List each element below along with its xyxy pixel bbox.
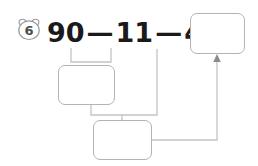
connector-step1-to-step2 bbox=[91, 105, 122, 120]
equation-term-2: 11 bbox=[116, 17, 154, 48]
answer-box-step-1[interactable] bbox=[58, 65, 115, 105]
answer-box-result[interactable] bbox=[190, 13, 245, 54]
worksheet-canvas: 6 90 — 11 — 46 = bbox=[0, 0, 258, 166]
problem-number-text: 6 bbox=[16, 16, 42, 42]
equation-operator-1: — bbox=[85, 17, 116, 48]
answer-box-result-value bbox=[191, 14, 244, 53]
problem-number-badge: 6 bbox=[16, 16, 42, 42]
answer-box-step-2-value bbox=[94, 121, 151, 159]
answer-box-step-2[interactable] bbox=[93, 120, 152, 160]
answer-box-step-1-value bbox=[59, 66, 114, 104]
equation-term-1: 90 bbox=[47, 17, 85, 48]
connector-46-to-step2 bbox=[122, 49, 157, 115]
arrow-to-result-box bbox=[152, 54, 221, 140]
equation-operator-2: — bbox=[153, 17, 184, 48]
bracket-under-90-minus-11 bbox=[71, 48, 111, 62]
